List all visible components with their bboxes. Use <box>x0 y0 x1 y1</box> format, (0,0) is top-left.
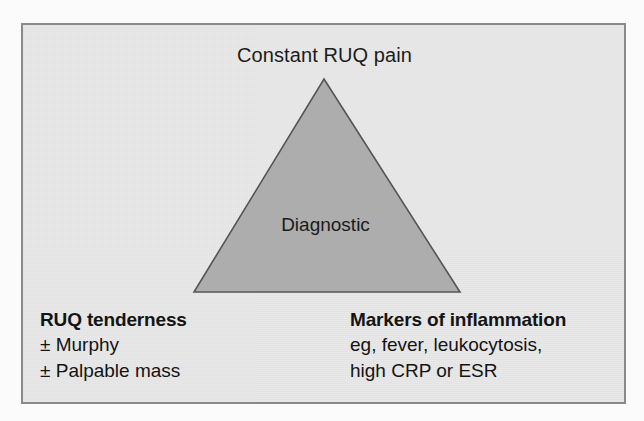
center-label: Diagnostic <box>23 214 628 236</box>
right-corner-line-1: eg, fever, leukocytosis, <box>350 332 566 357</box>
right-corner-block: Markers of inflammation eg, fever, leuko… <box>350 307 566 383</box>
right-corner-heading: Markers of inflammation <box>350 307 566 332</box>
figure-frame: Constant RUQ pain Diagnostic RUQ tendern… <box>21 23 626 404</box>
figure-root: Constant RUQ pain Diagnostic RUQ tendern… <box>0 0 644 421</box>
center-label-text: Diagnostic <box>281 214 370 235</box>
left-corner-block: RUQ tenderness ± Murphy ± Palpable mass <box>40 307 187 383</box>
right-corner-line-2: high CRP or ESR <box>350 358 566 383</box>
left-corner-line-1: ± Murphy <box>40 332 187 357</box>
left-corner-heading: RUQ tenderness <box>40 307 187 332</box>
left-corner-line-2: ± Palpable mass <box>40 358 187 383</box>
